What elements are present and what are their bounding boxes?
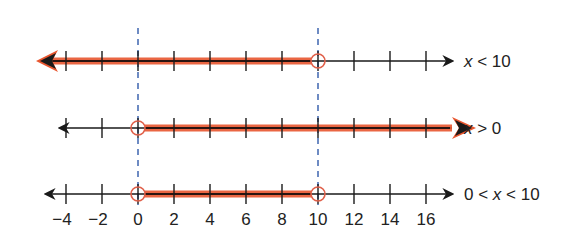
dashed-guide-lines bbox=[138, 28, 318, 205]
tick-label: 8 bbox=[277, 210, 286, 229]
inequality-label-3: 0 < x < 10 bbox=[464, 185, 540, 204]
tick-label: 16 bbox=[417, 210, 436, 229]
tick-label: 0 bbox=[133, 210, 142, 229]
open-circle-0 bbox=[131, 121, 145, 135]
tick-label: 4 bbox=[205, 210, 214, 229]
number-line-2: x > 0 bbox=[60, 117, 501, 139]
number-line-1: x < 10 bbox=[36, 50, 511, 72]
tick-labels: −4 −2 0 2 4 6 8 10 12 14 16 bbox=[52, 210, 435, 229]
tick-label: 10 bbox=[309, 210, 328, 229]
tick-label: 12 bbox=[345, 210, 364, 229]
tick-label: 6 bbox=[241, 210, 250, 229]
inequality-label-2: x > 0 bbox=[463, 119, 501, 138]
number-line-3: 0 < x < 10 bbox=[46, 184, 540, 204]
number-line-figure: x < 10 x > 0 bbox=[0, 0, 587, 247]
tick-label: −4 bbox=[52, 210, 71, 229]
tick-label: 2 bbox=[169, 210, 178, 229]
tick-label: 14 bbox=[381, 210, 400, 229]
tick-label: −2 bbox=[88, 210, 107, 229]
inequality-label-1: x < 10 bbox=[463, 52, 511, 71]
